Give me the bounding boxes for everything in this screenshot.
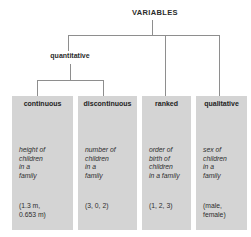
leaf-box-ranked: ranked order of birth of children in a f…: [142, 96, 191, 230]
leaf-example: (1, 2, 3): [149, 202, 187, 211]
leaf-label: continuous: [12, 100, 73, 107]
leaf-box-discontinuous: discontinuous number of children in a fa…: [78, 96, 137, 230]
leaf-example: (1.3 m, 0.653 m): [19, 202, 69, 219]
mid-node-label: quantitative: [40, 52, 100, 59]
connector-drop-quantitative: [68, 35, 69, 51]
leaf-description: number of children in a family: [85, 146, 133, 180]
connector-drop-discontinuous: [103, 80, 104, 96]
leaf-description: order of birth of children in a family: [149, 146, 187, 180]
connector-drop-ranked: [165, 35, 166, 96]
leaf-label: ranked: [142, 100, 191, 107]
leaf-example: (3, 0, 2): [85, 202, 133, 211]
leaf-example: (male, female): [203, 202, 243, 219]
leaf-box-qualitative: qualitative sex of children in a family …: [196, 96, 247, 230]
leaf-description: sex of children in a family: [203, 146, 243, 180]
connector-drop-continuous: [37, 80, 38, 96]
connector-drop-qualitative: [219, 35, 220, 96]
connector-quantitative-stem: [70, 64, 71, 80]
leaf-label: qualitative: [196, 100, 247, 107]
leaf-label: discontinuous: [78, 100, 137, 107]
root-node-label: VARIABLES: [110, 8, 200, 17]
variables-classification-diagram: VARIABLES quantitative continuous height…: [0, 0, 251, 237]
connector-root-stem: [152, 20, 153, 35]
connector-quantitative-bus: [37, 80, 104, 81]
leaf-box-continuous: continuous height of children in a famil…: [12, 96, 73, 230]
connector-top-bus: [68, 35, 220, 36]
leaf-description: height of children in a family: [19, 146, 69, 180]
